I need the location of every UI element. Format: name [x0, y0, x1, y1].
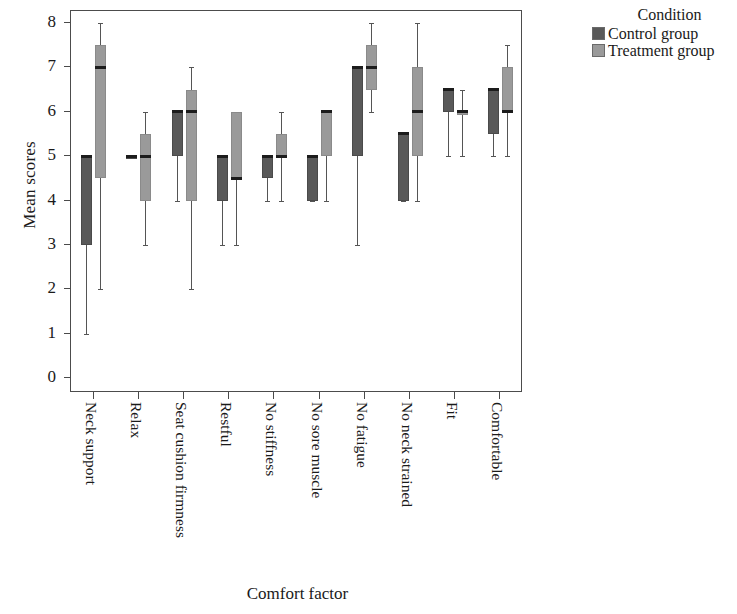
- median-line: [81, 155, 92, 158]
- y-tick-label: 2: [30, 279, 56, 296]
- x-tick-mark: [228, 392, 229, 399]
- whisker-lower: [357, 156, 358, 245]
- x-tick-mark: [273, 392, 274, 399]
- cap-lower: [143, 245, 148, 246]
- x-tick-label: No neck strained: [400, 402, 416, 507]
- box-iqr: [276, 134, 287, 156]
- cap-upper: [98, 23, 103, 24]
- legend-entries: Control groupTreatment group: [592, 25, 737, 60]
- y-tick-label: 7: [30, 57, 56, 74]
- x-tick-mark: [499, 392, 500, 399]
- box-iqr: [321, 112, 332, 156]
- cap-lower: [220, 245, 225, 246]
- cap-lower: [279, 201, 284, 202]
- box-plot: [186, 11, 197, 393]
- whisker-lower: [191, 201, 192, 290]
- box-plot: [172, 11, 183, 393]
- x-tick-mark: [409, 392, 410, 399]
- x-tick-label: Relax: [128, 402, 144, 438]
- legend-item-label: Control group: [608, 25, 698, 42]
- whisker-upper: [507, 45, 508, 67]
- whisker-upper: [191, 67, 192, 89]
- x-tick-label: Restful: [219, 402, 235, 447]
- box-iqr: [81, 156, 92, 245]
- legend-item: Control group: [592, 25, 737, 42]
- box-plot: [443, 11, 454, 393]
- median-line: [366, 66, 377, 69]
- box-plot: [398, 11, 409, 393]
- median-line: [502, 110, 513, 113]
- x-tick-label: No sore muscle: [309, 402, 325, 498]
- median-line: [126, 155, 137, 158]
- legend-swatch-icon: [592, 44, 605, 57]
- box-plot: [352, 11, 363, 393]
- x-tick-label: Comfortable: [490, 402, 506, 480]
- legend-title: Condition: [592, 6, 737, 24]
- box-iqr: [488, 90, 499, 134]
- x-tick-mark: [138, 392, 139, 399]
- y-tick-label: 8: [30, 13, 56, 30]
- y-tick-label: 5: [30, 146, 56, 163]
- x-tick-mark: [454, 392, 455, 399]
- cap-lower: [234, 245, 239, 246]
- cap-lower: [460, 156, 465, 157]
- box-plot: [307, 11, 318, 393]
- y-tick-label: 1: [30, 324, 56, 341]
- x-tick-mark: [93, 392, 94, 399]
- legend: Condition Control groupTreatment group: [592, 6, 737, 60]
- legend-item-label: Treatment group: [608, 42, 715, 59]
- cap-lower: [446, 156, 451, 157]
- y-tick-label: 6: [30, 102, 56, 119]
- legend-item: Treatment group: [592, 42, 737, 59]
- whisker-lower: [462, 112, 463, 156]
- box-plot: [217, 11, 228, 393]
- cap-lower: [265, 201, 270, 202]
- x-tick-label: Fit: [445, 402, 461, 419]
- median-line: [352, 66, 363, 69]
- x-tick-label: Neck support: [83, 402, 99, 485]
- median-line: [172, 110, 183, 113]
- median-line: [412, 110, 423, 113]
- cap-upper: [143, 112, 148, 113]
- box-iqr: [140, 134, 151, 201]
- median-line: [276, 155, 287, 158]
- cap-lower: [98, 289, 103, 290]
- box-plot: [502, 11, 513, 393]
- whisker-upper: [462, 90, 463, 112]
- cap-lower: [324, 201, 329, 202]
- cap-upper: [415, 23, 420, 24]
- cap-lower: [491, 156, 496, 157]
- y-tick-label: 0: [30, 368, 56, 385]
- whisker-lower: [507, 112, 508, 156]
- median-line: [321, 110, 332, 113]
- whisker-upper: [145, 112, 146, 134]
- box-iqr: [352, 67, 363, 156]
- cap-lower: [355, 245, 360, 246]
- box-plot: [81, 11, 92, 393]
- box-iqr: [172, 112, 183, 156]
- box-iqr: [307, 156, 318, 200]
- y-tick-label: 4: [30, 191, 56, 208]
- box-plot: [231, 11, 242, 393]
- whisker-lower: [281, 156, 282, 200]
- whisker-lower: [326, 156, 327, 200]
- cap-upper: [505, 45, 510, 46]
- median-line: [217, 155, 228, 158]
- cap-upper: [189, 67, 194, 68]
- median-line: [488, 88, 499, 91]
- median-line: [231, 177, 242, 180]
- boxplot-figure: Mean scores 876543210 Neck supportRelaxS…: [0, 0, 737, 614]
- whisker-lower: [222, 201, 223, 245]
- median-line: [95, 66, 106, 69]
- cap-upper: [279, 112, 284, 113]
- whisker-upper: [417, 23, 418, 67]
- cap-lower: [84, 334, 89, 335]
- box-plot: [457, 11, 468, 393]
- cap-upper: [369, 23, 374, 24]
- y-tick-label: 3: [30, 235, 56, 252]
- x-tick-mark: [364, 392, 365, 399]
- x-tick-label: No stiffness: [264, 402, 280, 476]
- whisker-lower: [236, 178, 237, 245]
- median-line: [140, 155, 151, 158]
- cap-lower: [310, 201, 315, 202]
